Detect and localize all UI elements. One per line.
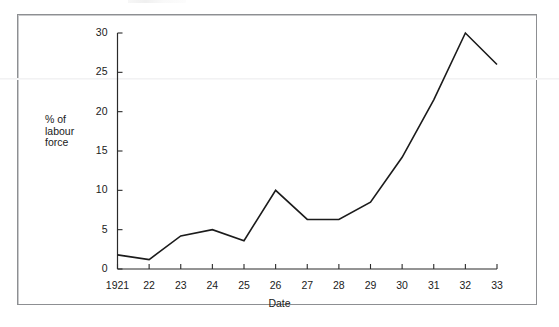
y-tick-label: 0 bbox=[82, 263, 108, 274]
y-tick-label: 20 bbox=[82, 106, 108, 117]
x-tick-label: 24 bbox=[207, 280, 219, 291]
y-axis-ticks bbox=[118, 33, 123, 269]
x-axis bbox=[118, 264, 498, 269]
data-series-line bbox=[118, 33, 498, 260]
x-tick-label: 28 bbox=[333, 280, 345, 291]
x-axis-title: Date bbox=[0, 297, 559, 309]
y-tick-label: 15 bbox=[82, 145, 108, 156]
x-tick-label: 27 bbox=[301, 280, 313, 291]
x-tick-label: 31 bbox=[428, 280, 440, 291]
figure-root: % of labour force 051015202530 192122232… bbox=[0, 0, 559, 327]
y-tick-label: 25 bbox=[82, 66, 108, 77]
x-tick-label: 25 bbox=[238, 280, 250, 291]
plot-area: % of labour force 051015202530 192122232… bbox=[0, 0, 559, 327]
x-tick-label: 23 bbox=[175, 280, 187, 291]
x-tick-label: 1921 bbox=[106, 280, 129, 291]
x-axis-ticks bbox=[118, 264, 498, 269]
x-tick-label: 29 bbox=[365, 280, 377, 291]
y-axis bbox=[118, 33, 123, 269]
line-chart-canvas bbox=[0, 0, 559, 327]
y-tick-label: 10 bbox=[82, 184, 108, 195]
y-axis-title: % of labour force bbox=[45, 114, 74, 149]
x-tick-label: 30 bbox=[396, 280, 408, 291]
y-tick-label: 30 bbox=[82, 27, 108, 38]
x-tick-label: 22 bbox=[143, 280, 155, 291]
x-tick-label: 26 bbox=[270, 280, 282, 291]
y-tick-label: 5 bbox=[82, 224, 108, 235]
x-tick-label: 33 bbox=[491, 280, 503, 291]
x-tick-label: 32 bbox=[460, 280, 472, 291]
